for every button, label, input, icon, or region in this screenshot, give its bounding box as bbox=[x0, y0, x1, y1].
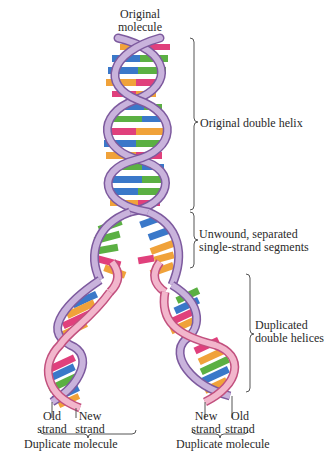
label-line: double helices bbox=[255, 332, 324, 345]
label-left-duplicate-molecule: Duplicate molecule bbox=[24, 438, 118, 451]
bracket-duplicated bbox=[246, 274, 254, 392]
label-line: strand bbox=[186, 423, 226, 436]
bracket-original-helix bbox=[190, 38, 198, 210]
label-left-old-strand: Old strand bbox=[34, 410, 70, 436]
label-line: strand bbox=[70, 423, 110, 436]
label-right-new-strand: New strand bbox=[186, 410, 226, 436]
label-left-new-strand: New strand bbox=[70, 410, 110, 436]
right-duplicate-helix bbox=[164, 285, 235, 418]
bracket-unwound bbox=[190, 212, 198, 268]
replication-fork bbox=[92, 212, 179, 292]
label-line: single-strand segments bbox=[199, 241, 309, 254]
label-unwound-segments: Unwound, separated single-strand segment… bbox=[199, 228, 309, 254]
label-line: strand bbox=[222, 423, 258, 436]
label-line: molecule bbox=[100, 21, 180, 34]
left-duplicate-helix bbox=[46, 280, 110, 418]
label-original-double-helix: Original double helix bbox=[200, 117, 303, 130]
original-helix bbox=[104, 38, 170, 212]
label-duplicated-helices: Duplicated double helices bbox=[255, 319, 324, 345]
label-right-old-strand: Old strand bbox=[222, 410, 258, 436]
label-right-duplicate-molecule: Duplicate molecule bbox=[176, 438, 270, 451]
label-original-molecule: Original molecule bbox=[100, 8, 180, 34]
label-line: strand bbox=[34, 423, 70, 436]
